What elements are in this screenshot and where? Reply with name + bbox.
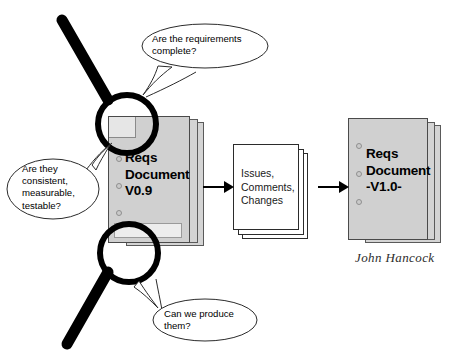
speech-bubble-label-can-we-produce: Can we produce them?: [164, 308, 254, 332]
magnifier-lens-icon: [100, 224, 158, 282]
bubble-tail: [92, 145, 110, 170]
bubble-tail-secondary: [146, 72, 196, 97]
speech-bubble-label-consistent-measurable-testable: Are they consistent, measurable, testabl…: [22, 163, 94, 212]
magnifier-top: [62, 20, 156, 153]
magnifier-handle-icon: [67, 272, 108, 344]
arrow-issues-to-final: [318, 181, 349, 193]
magnifier-handle-icon: [62, 20, 108, 100]
bubble-tail: [134, 281, 158, 308]
bubble-tail-secondary: [156, 279, 162, 310]
arrow-review-to-issues: [203, 181, 234, 193]
arrow-head: [224, 181, 234, 193]
diagram-canvas: Reqs Document V0.9 Issues, Comments, Cha…: [0, 0, 454, 356]
arrow-head: [339, 181, 349, 193]
magnifier-lens-icon: [98, 95, 156, 153]
magnifier-bottom: [67, 224, 158, 344]
speech-bubble-label-requirements-complete: Are the requirements complete?: [152, 33, 262, 57]
bubble-tail: [143, 66, 172, 95]
